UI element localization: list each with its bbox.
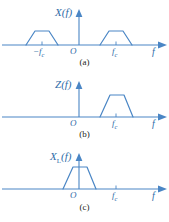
panel-a: X(f) O −fc fc f (a) — [0, 0, 169, 74]
trapezoid-pos-fc — [100, 95, 133, 117]
x-axis — [2, 185, 167, 192]
panel-c: XL(f) O fc f (c) — [0, 146, 169, 220]
panel-b: Z(f) O fc f (b) — [0, 72, 169, 146]
tick-label-sub: c — [42, 51, 45, 58]
y-axis — [76, 153, 83, 189]
x-axis — [2, 41, 167, 48]
panel-b-xlabel: f — [152, 119, 155, 129]
panel-c-xlabel: f — [152, 191, 155, 201]
panel-b-origin-label: O — [70, 119, 77, 128]
panel-b-ylabel-tail: (f) — [61, 78, 71, 90]
panel-c-ylabel-tail: (f) — [61, 150, 71, 162]
panel-a-tick-pos-fc: fc — [112, 47, 117, 58]
panel-b-caption: (b) — [0, 130, 169, 139]
panel-c-origin-label: O — [70, 191, 77, 200]
panel-a-xlabel: f — [152, 47, 155, 57]
tick-label-base: −f — [33, 46, 42, 56]
panel-c-tick-pos-fc: fc — [112, 191, 117, 202]
panel-a-caption: (a) — [0, 58, 169, 67]
panel-c-ylabel: XL(f) — [50, 151, 71, 165]
x-axis — [2, 113, 167, 120]
panel-a-tick-neg-fc: −fc — [33, 47, 44, 58]
panel-a-ylabel-base: X — [55, 6, 62, 18]
panel-a-origin-label: O — [70, 47, 77, 56]
tick-label-sub: c — [115, 195, 118, 202]
panel-a-ylabel: X(f) — [55, 7, 72, 18]
tick-label-sub: c — [115, 123, 118, 130]
panel-b-tick-pos-fc: fc — [112, 119, 117, 130]
spectrum-figure: X(f) O −fc fc f (a) — [0, 0, 169, 222]
panel-b-ylabel: Z(f) — [55, 79, 72, 90]
tick-label-sub: c — [115, 51, 118, 58]
y-axis — [76, 9, 83, 45]
y-axis — [76, 81, 83, 117]
panel-c-caption: (c) — [0, 203, 169, 212]
panel-c-ylabel-base: X — [50, 150, 57, 162]
panel-a-ylabel-tail: (f) — [62, 6, 72, 18]
